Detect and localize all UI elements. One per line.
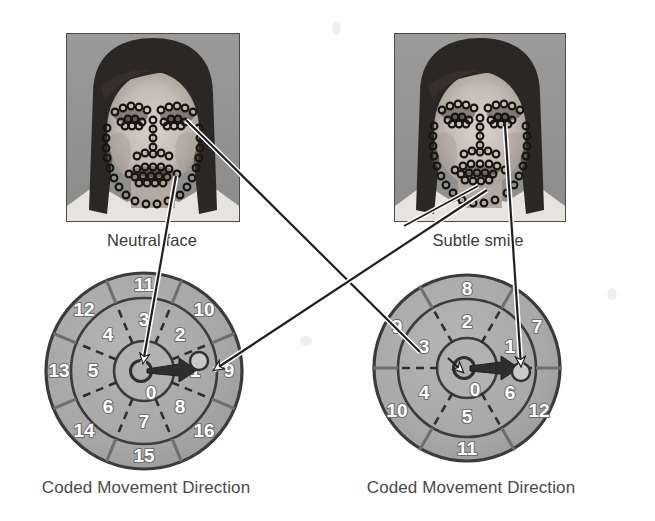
dial-sector-label: 16 (193, 420, 214, 441)
figure-canvas: Neutral face Subtle smile (0, 0, 655, 521)
dial-sector-label: 10 (386, 400, 407, 421)
vector-endpoint-marker (190, 352, 208, 370)
dial-sector-label: 5 (88, 360, 99, 381)
dial-sector-label: 12 (73, 299, 94, 320)
subtle-smile-face-photo (394, 33, 566, 222)
left-coded-direction-dial: 1 2 3 4 5 6 7 8 9 10 11 12 13 14 15 16 0 (41, 268, 247, 474)
dial-sector-label: 7 (139, 411, 150, 432)
subtle-smile-caption: Subtle smile (388, 231, 568, 250)
dial-sector-label: 9 (224, 360, 235, 381)
dial-sector-label: 3 (139, 309, 150, 330)
dial-sector-label: 5 (462, 406, 473, 427)
dial-sector-label: 10 (193, 299, 214, 320)
dial-sector-label: 3 (419, 336, 430, 357)
scan-artifact (332, 22, 341, 35)
dial-sector-label: 14 (73, 420, 95, 441)
dial-sector-label: 8 (462, 278, 473, 299)
right-coded-direction-dial: 1 2 3 4 5 6 7 8 9 10 11 12 0 (369, 270, 565, 466)
dial-sector-label: 4 (419, 382, 430, 403)
dial-sector-label: 2 (175, 324, 186, 345)
vector-endpoint-marker (512, 363, 530, 381)
dial-center-label: 0 (146, 382, 157, 403)
scan-artifact (607, 288, 617, 300)
dial-sector-label: 12 (528, 400, 549, 421)
dial-sector-label: 6 (103, 396, 114, 417)
dial-center-label: 0 (470, 379, 481, 400)
dial-sector-label: 15 (133, 445, 155, 466)
scan-artifact (300, 336, 312, 346)
left-dial-caption: Coded Movement Direction (8, 478, 284, 498)
right-dial-caption: Coded Movement Direction (328, 478, 614, 498)
dial-sector-label: 6 (505, 382, 516, 403)
dial-sector-label: 7 (532, 316, 543, 337)
dial-sector-label: 2 (462, 311, 473, 332)
dial-sector-label: 9 (392, 316, 403, 337)
dial-sector-label: 1 (505, 336, 516, 357)
dial-sector-label: 11 (134, 274, 155, 295)
neutral-face-photo (66, 33, 240, 222)
neutral-face-caption: Neutral face (62, 231, 242, 250)
dial-sector-label: 4 (103, 324, 114, 345)
dial-sector-label: 13 (48, 360, 69, 381)
dial-sector-label: 8 (175, 396, 186, 417)
dial-sector-label: 11 (457, 438, 478, 459)
